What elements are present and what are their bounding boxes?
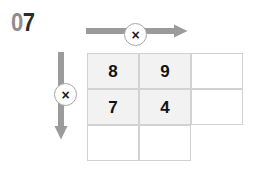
grid-cell-r2-c0[interactable] (87, 125, 139, 161)
grid-cell-r0-c0[interactable]: 8 (87, 53, 139, 89)
multiply-icon: × (131, 28, 139, 42)
grid-cell-value: 8 (108, 63, 117, 80)
grid-cell-r1-c0[interactable]: 7 (87, 89, 139, 125)
grid-cell-value: 4 (160, 99, 169, 116)
multiply-icon: × (61, 88, 69, 102)
problem-number-prefix: 0 (11, 8, 23, 36)
worksheet-canvas: 07 × × 8974 (0, 0, 261, 177)
operator-badge-multiply-left[interactable]: × (54, 83, 77, 106)
problem-number: 07 (11, 10, 35, 35)
multiplication-grid: 8974 (87, 53, 243, 161)
grid-cell-r0-c1[interactable]: 9 (139, 53, 191, 89)
grid-cell-r1-c2[interactable] (191, 89, 243, 125)
grid-cell-r1-c1[interactable]: 4 (139, 89, 191, 125)
problem-number-digit: 7 (23, 8, 35, 36)
grid-cell-r0-c2[interactable] (191, 53, 243, 89)
grid-cell-r2-c1[interactable] (139, 125, 191, 161)
operator-badge-multiply-top[interactable]: × (124, 23, 147, 46)
grid-cell-value: 7 (108, 99, 117, 116)
grid-cell-value: 9 (160, 63, 169, 80)
